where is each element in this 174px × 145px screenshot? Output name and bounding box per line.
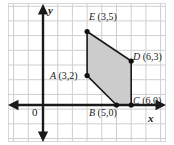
vertex-label-a-name: A [50, 70, 56, 81]
vertex-label-d-coord: (6,3) [143, 51, 162, 62]
vertex-label-b-coord: (5,0) [98, 107, 117, 118]
x-axis-label: x [148, 113, 154, 124]
vertex-label-c-coord: (6,0) [142, 95, 161, 106]
vertex-label-e-name: E [89, 11, 95, 22]
coordinate-plane-figure: E (3,5) D (6,3) A (3,2) B (5,0) C (6,0) … [0, 0, 174, 145]
vertex-label-d: D (6,3) [133, 52, 162, 62]
y-axis-label: y [48, 5, 53, 16]
vertex-label-b-name: B [89, 107, 95, 118]
vertex-label-c-name: C [133, 95, 140, 106]
vertex-point-a [85, 73, 90, 78]
vertex-label-e-coord: (3,5) [98, 11, 117, 22]
origin-label: 0 [32, 107, 38, 118]
vertex-label-c: C (6,0) [133, 96, 161, 106]
vertex-label-e: E (3,5) [89, 12, 117, 22]
vertex-label-d-name: D [133, 51, 140, 62]
vertex-label-b: B (5,0) [89, 108, 117, 118]
vertex-label-a: A (3,2) [50, 71, 78, 81]
vertex-point-e [85, 29, 90, 34]
vertex-label-a-coord: (3,2) [58, 70, 77, 81]
